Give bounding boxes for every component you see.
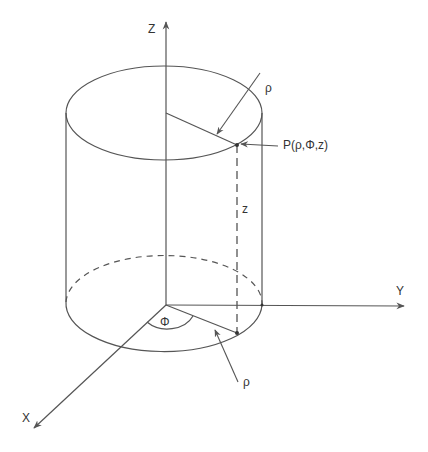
- z-height-label: z: [242, 203, 248, 215]
- point-p-dot: [235, 143, 239, 147]
- z-axis-label: Z: [148, 23, 155, 35]
- point-p-label: P(ρ,Φ,z): [283, 139, 328, 151]
- y-axis: [166, 305, 404, 306]
- x-axis-label: X: [22, 412, 30, 424]
- point-projection-dot: [235, 331, 239, 335]
- cylinder-bottom-back-arc: [66, 255, 262, 305]
- phi-angle-arc: [147, 316, 193, 329]
- cylindrical-coordinates-diagram: Z Y X ρ P(ρ,Φ,z) z Φ ρ: [0, 0, 428, 452]
- rho-bottom-arrow: [215, 330, 238, 382]
- x-axis: [34, 305, 166, 428]
- diagram-svg: [0, 0, 428, 452]
- phi-angle-label: Φ: [160, 316, 170, 328]
- rho-bottom-label: ρ: [243, 376, 250, 388]
- cylinder-top-ellipse: [66, 66, 262, 160]
- bottom-radius-line: [166, 305, 237, 333]
- top-radius-line: [166, 113, 237, 145]
- rho-top-label: ρ: [265, 82, 272, 94]
- y-axis-intersection-dot: [261, 304, 264, 307]
- y-axis-label: Y: [396, 285, 404, 297]
- point-p-arrow: [241, 144, 278, 146]
